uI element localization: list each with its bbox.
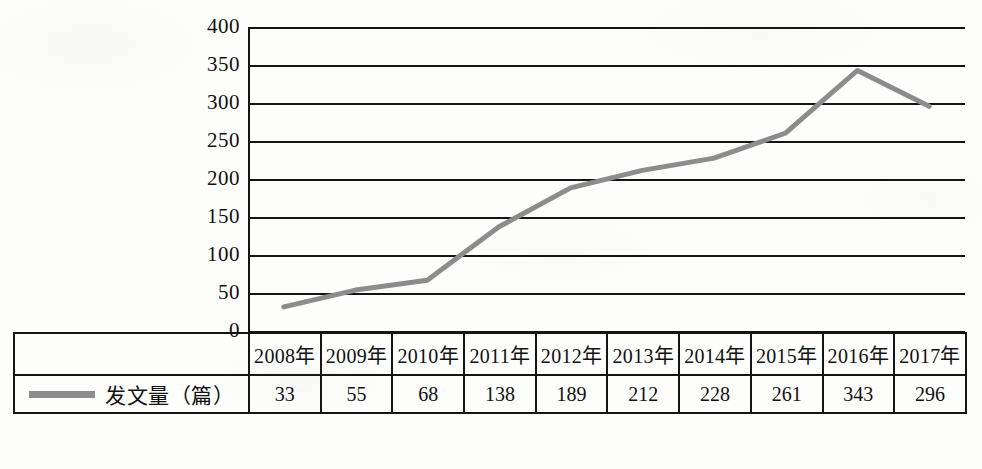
y-tick-label: 400 (178, 16, 240, 37)
y-tick-label: 200 (178, 168, 240, 189)
value-cell: 228 (679, 375, 751, 413)
value-cell: 261 (751, 375, 823, 413)
y-tick-label: 50 (178, 282, 240, 303)
line-chart-figure: 400 350 300 250 200 150 100 50 0 (0, 0, 982, 469)
y-tick-label: 150 (178, 206, 240, 227)
y-tick-label: 100 (178, 244, 240, 265)
legend-line-swatch-icon (29, 391, 95, 398)
year-cell: 2013年 (607, 333, 679, 375)
value-cell: 138 (464, 375, 536, 413)
value-cell: 189 (536, 375, 608, 413)
year-cell: 2016年 (823, 333, 895, 375)
value-cell: 343 (823, 375, 895, 413)
data-table: 2008年 2009年 2010年 2011年 2012年 2013年 2014… (13, 332, 967, 414)
legend-cell: 发文量（篇） (14, 375, 249, 413)
year-cell: 2009年 (321, 333, 393, 375)
year-cell: 2010年 (392, 333, 464, 375)
data-series-line (248, 27, 965, 332)
series-polyline (284, 70, 929, 306)
value-cell: 296 (894, 375, 966, 413)
table-corner-spacer (14, 333, 249, 375)
year-cell: 2015年 (751, 333, 823, 375)
table-row-years: 2008年 2009年 2010年 2011年 2012年 2013年 2014… (14, 333, 966, 375)
year-cell: 2014年 (679, 333, 751, 375)
value-cell: 33 (249, 375, 321, 413)
year-cell: 2017年 (894, 333, 966, 375)
y-tick-label: 300 (178, 92, 240, 113)
year-cell: 2011年 (464, 333, 536, 375)
value-cell: 55 (321, 375, 393, 413)
year-cell: 2012年 (536, 333, 608, 375)
y-axis-tick-labels: 400 350 300 250 200 150 100 50 0 (178, 27, 240, 332)
legend-label: 发文量（篇） (105, 379, 234, 409)
y-tick-label: 350 (178, 54, 240, 75)
y-tick-label: 250 (178, 130, 240, 151)
year-cell: 2008年 (249, 333, 321, 375)
table-row-values: 发文量（篇） 33 55 68 138 189 212 228 261 343 … (14, 375, 966, 413)
value-cell: 68 (392, 375, 464, 413)
value-cell: 212 (607, 375, 679, 413)
